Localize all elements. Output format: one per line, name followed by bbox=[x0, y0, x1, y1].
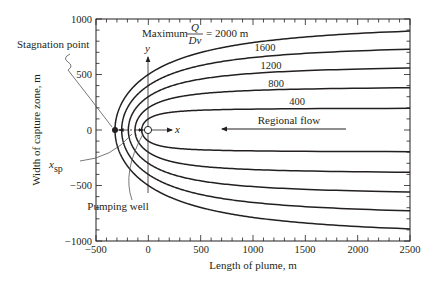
x-tick-labels: −500 0 500 1000 1500 2000 2500 bbox=[85, 244, 420, 255]
maximum-text: Maximum bbox=[142, 27, 188, 39]
xsp-label: xsp bbox=[48, 158, 63, 174]
y-tick-label: 1000 bbox=[71, 14, 92, 25]
x-tick-label: 2000 bbox=[348, 244, 369, 255]
pumping-well-label: Pumping well bbox=[87, 200, 148, 212]
curve-label-1200: 1200 bbox=[261, 60, 282, 71]
fraction-numerator: Q bbox=[191, 21, 199, 33]
x-axis-title: Length of plume, m bbox=[209, 259, 297, 271]
fraction-denominator: Dv bbox=[188, 34, 202, 46]
stagnation-point-marker bbox=[112, 127, 118, 133]
stagnation-point-label: Stagnation point bbox=[17, 38, 89, 50]
maximum-q-dv-label: Maximum Q Dv = 2000 m bbox=[142, 21, 249, 46]
x-tick-label: 500 bbox=[193, 244, 209, 255]
y-tick-label: −500 bbox=[70, 180, 92, 191]
x-tick-label: 0 bbox=[145, 244, 150, 255]
capture-zone-chart: −500 0 500 1000 1500 2000 2500 1000 500 … bbox=[0, 0, 440, 284]
pumping-well-marker bbox=[144, 126, 151, 133]
x-tick-label: 2500 bbox=[400, 244, 421, 255]
y-tick-label: 0 bbox=[87, 125, 92, 136]
regional-flow-label: Regional flow bbox=[258, 114, 321, 126]
y-tick-label: 500 bbox=[76, 69, 92, 80]
x-tick-label: 1500 bbox=[295, 244, 316, 255]
x-tick-label: 1000 bbox=[243, 244, 264, 255]
curve-label-2000: = 2000 m bbox=[206, 27, 249, 39]
curve-label-1600: 1600 bbox=[255, 42, 276, 53]
local-x-axis-label: x bbox=[174, 123, 180, 135]
curve-label-800: 800 bbox=[268, 78, 284, 89]
local-y-axis-label: y bbox=[144, 42, 150, 54]
xsp-leader bbox=[80, 134, 132, 161]
y-axis-title: Width of capture zone, m bbox=[30, 74, 42, 186]
stagnation-point-leader bbox=[65, 54, 112, 127]
y-tick-label: −1000 bbox=[65, 236, 92, 247]
curve-label-400: 400 bbox=[289, 96, 305, 107]
xsp-subscript: sp bbox=[54, 163, 63, 174]
